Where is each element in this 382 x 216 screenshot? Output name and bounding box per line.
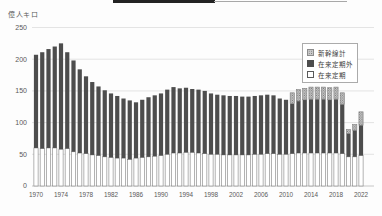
legend-item-conventional-commuter: 在来定期 [307, 69, 353, 80]
svg-text:100: 100 [15, 119, 27, 126]
legend-item-shinkansen: 新幹線計 [307, 47, 353, 58]
svg-text:1970: 1970 [29, 191, 44, 198]
svg-text:2010: 2010 [279, 191, 294, 198]
svg-text:2002: 2002 [229, 191, 244, 198]
svg-text:0: 0 [23, 182, 27, 189]
svg-text:2006: 2006 [254, 191, 269, 198]
svg-text:2022: 2022 [354, 191, 369, 198]
svg-text:1994: 1994 [179, 191, 194, 198]
svg-text:1990: 1990 [154, 191, 169, 198]
commuter-swatch-icon [307, 71, 314, 78]
noncommuter-swatch-icon [307, 60, 314, 67]
svg-text:1986: 1986 [129, 191, 144, 198]
svg-text:2018: 2018 [329, 191, 344, 198]
legend-label: 在来定期 [318, 70, 346, 80]
svg-text:50: 50 [19, 151, 27, 158]
svg-text:1978: 1978 [79, 191, 94, 198]
legend: 新幹線計 在来定期外 在来定期 [302, 43, 358, 83]
legend-label: 在来定期外 [318, 59, 353, 69]
svg-text:1974: 1974 [54, 191, 69, 198]
svg-text:1998: 1998 [204, 191, 219, 198]
passenger-km-chart: 億人キロ 05010015020025019701974197819821986… [0, 0, 382, 216]
svg-text:150: 150 [15, 87, 27, 94]
legend-label: 新幹線計 [318, 48, 346, 58]
svg-text:1982: 1982 [104, 191, 119, 198]
legend-item-conventional-noncommuter: 在来定期外 [307, 58, 353, 69]
svg-text:2014: 2014 [304, 191, 319, 198]
stacked-bar-plot: 0501001502002501970197419781982198619901… [0, 0, 382, 216]
svg-text:200: 200 [15, 56, 27, 63]
shinkansen-swatch-icon [307, 49, 314, 56]
svg-text:250: 250 [15, 24, 27, 31]
